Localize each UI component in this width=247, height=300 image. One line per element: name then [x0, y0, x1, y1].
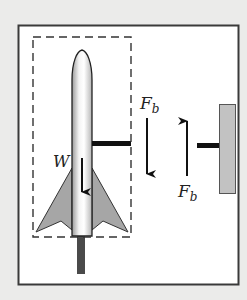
rocket-lug: [92, 141, 131, 146]
wall: [220, 105, 236, 194]
free-body-diagram: W Fb Fb: [0, 0, 247, 300]
launch-rod: [77, 236, 85, 274]
weight-label: W: [53, 152, 71, 171]
rocket-body: [72, 50, 92, 236]
wall-lug: [197, 143, 220, 148]
figure-frame: [19, 26, 239, 285]
